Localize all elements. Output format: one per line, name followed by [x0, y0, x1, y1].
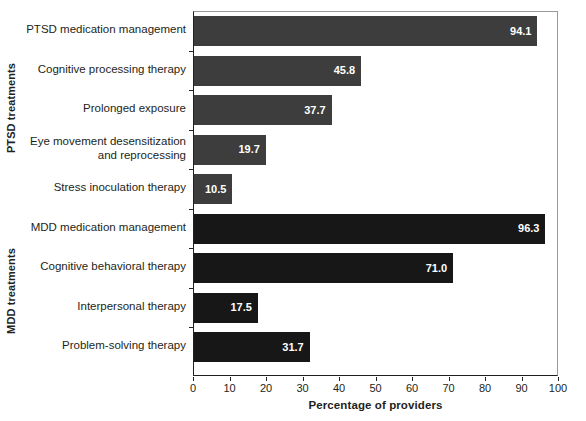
x-axis-tick-label: 30	[296, 382, 308, 394]
y-axis-tick	[189, 51, 194, 52]
category-label: Prolonged exposure	[22, 102, 186, 116]
category-label: PTSD medication management	[22, 23, 186, 37]
x-axis-tick-label: 90	[515, 382, 527, 394]
x-axis-title: Percentage of providers	[193, 399, 558, 411]
category-label: Stress inoculation therapy	[22, 181, 186, 195]
x-axis-tick-label: 70	[442, 382, 454, 394]
bar-value-label: 45.8	[334, 65, 361, 76]
category-label-list: PTSD medication managementCognitive proc…	[22, 11, 190, 376]
x-axis-tick-label: 40	[333, 382, 345, 394]
x-axis-tick	[193, 377, 194, 381]
x-axis-tick-label: 10	[223, 382, 235, 394]
group-axis-title-ptsd: PTSD treatments	[0, 11, 22, 205]
bar-value-label: 37.7	[304, 105, 331, 116]
y-axis-tick	[189, 209, 194, 210]
category-label: Eye movement desensitization and reproce…	[22, 135, 186, 162]
x-axis-tick-label: 0	[190, 382, 196, 394]
bar-3: 37.7	[194, 95, 332, 125]
bar-value-label: 94.1	[510, 26, 537, 37]
x-axis-tick	[230, 377, 231, 381]
x-axis-tick-label: 100	[549, 382, 567, 394]
group-axis-title-mdd-text: MDD treatments	[5, 248, 17, 334]
bar-value-label: 19.7	[238, 144, 265, 155]
group-axis-title-mdd: MDD treatments	[0, 205, 22, 376]
bar-value-label: 10.5	[205, 184, 232, 195]
bar-value-label: 96.3	[518, 223, 545, 234]
x-axis-tick	[339, 377, 340, 381]
x-axis-tick-label: 20	[260, 382, 272, 394]
y-axis-tick	[189, 130, 194, 131]
bar-9: 31.7	[194, 332, 310, 362]
x-axis-tick-label: 50	[369, 382, 381, 394]
x-axis-tick	[449, 377, 450, 381]
bar-value-label: 31.7	[282, 342, 309, 353]
y-axis-tick	[189, 288, 194, 289]
x-axis-tick-label: 60	[406, 382, 418, 394]
x-axis-tick	[376, 377, 377, 381]
category-label: MDD medication management	[22, 221, 186, 235]
x-axis-tick	[303, 377, 304, 381]
category-label: Cognitive behavioral therapy	[22, 260, 186, 274]
bar-chart: PTSD treatments MDD treatments PTSD medi…	[0, 0, 586, 421]
y-axis-tick	[189, 327, 194, 328]
bar-5: 10.5	[194, 174, 232, 204]
bar-4: 19.7	[194, 135, 266, 165]
y-axis-tick	[189, 248, 194, 249]
x-axis-tick	[558, 377, 559, 381]
x-axis-tick	[412, 377, 413, 381]
x-axis-tick	[266, 377, 267, 381]
bar-7: 71.0	[194, 253, 453, 283]
bar-6: 96.3	[194, 214, 545, 244]
bar-2: 45.8	[194, 56, 361, 86]
category-label: Cognitive processing therapy	[22, 63, 186, 77]
y-axis-tick	[189, 90, 194, 91]
group-axis-title-ptsd-text: PTSD treatments	[5, 63, 17, 153]
bar-value-label: 17.5	[230, 302, 257, 313]
category-label: Problem-solving therapy	[22, 339, 186, 353]
x-axis-tick	[485, 377, 486, 381]
bar-value-label: 71.0	[426, 263, 453, 274]
x-axis-tick	[522, 377, 523, 381]
x-axis: Percentage of providers 0102030405060708…	[193, 377, 558, 421]
bar-8: 17.5	[194, 293, 258, 323]
plot-area: 94.145.837.719.710.596.371.017.531.7	[193, 11, 558, 376]
category-label: Interpersonal therapy	[22, 300, 186, 314]
y-axis-tick	[189, 169, 194, 170]
bar-1: 94.1	[194, 16, 537, 46]
x-axis-tick-label: 80	[479, 382, 491, 394]
